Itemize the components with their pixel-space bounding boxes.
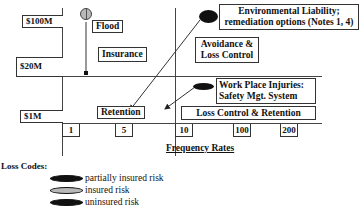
legend-label: insured risk bbox=[85, 185, 130, 195]
legend-item-partially-insured: partially insured risk bbox=[50, 173, 164, 183]
loss-control-retention-label: Loss Control & Retention bbox=[181, 106, 316, 120]
insured-ellipse-icon bbox=[50, 187, 83, 194]
x-tick-1: 1 bbox=[62, 124, 80, 137]
avoidance-line2: Loss Control bbox=[196, 50, 258, 61]
flood-label: Flood bbox=[92, 20, 123, 33]
workplace-injuries-label: Work Place Injuries: Safety Mgt. System bbox=[216, 78, 316, 104]
y-label-100m: $100M bbox=[22, 15, 63, 28]
partially-insured-ellipse-icon bbox=[50, 175, 83, 182]
y-label-1m: $1M bbox=[20, 110, 63, 123]
x-tick-10: 10 bbox=[175, 124, 193, 137]
legend-item-insured: insured risk bbox=[50, 185, 130, 195]
environmental-line2: remediation options (Notes 1, 4) bbox=[220, 17, 358, 28]
x-tick-100: 100 bbox=[233, 124, 251, 137]
y-label-20m: $20M bbox=[16, 57, 63, 77]
avoidance-line1: Avoidance & bbox=[196, 39, 258, 50]
insurance-region-label: Insurance bbox=[98, 47, 147, 62]
legend-item-uninsured: uninsured risk bbox=[50, 197, 139, 207]
environmental-liability-label: Environmental Liability; remediation opt… bbox=[219, 4, 359, 30]
environmental-line1: Environmental Liability; bbox=[220, 6, 358, 17]
workplace-line2: Safety Mgt. System bbox=[219, 91, 313, 102]
legend-label: uninsured risk bbox=[85, 197, 139, 207]
avoidance-loss-control-label: Avoidance & Loss Control bbox=[195, 37, 259, 63]
uninsured-ellipse-icon bbox=[50, 199, 83, 206]
legend-title: Loss Codes: bbox=[1, 161, 47, 171]
workplace-line1: Work Place Injuries: bbox=[219, 80, 313, 91]
x-tick-5: 5 bbox=[115, 124, 133, 137]
legend-label: partially insured risk bbox=[85, 173, 164, 183]
retention-region-label: Retention bbox=[97, 106, 145, 119]
workplace-uninsured-risk-icon bbox=[193, 83, 214, 90]
x-tick-200: 200 bbox=[280, 124, 298, 137]
flood-insured-risk-icon bbox=[80, 8, 92, 20]
environmental-uninsured-risk-icon bbox=[199, 10, 218, 23]
x-axis-title: Frequency Rates bbox=[166, 143, 234, 153]
